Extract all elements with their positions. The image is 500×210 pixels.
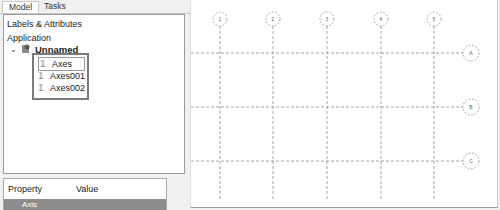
chevron-down-icon[interactable]: ⌄ (10, 45, 17, 54)
3d-view[interactable]: 1 2 3 4 5 A B C (190, 0, 498, 208)
labels-attributes-item[interactable]: Labels & Attributes (7, 19, 82, 29)
column-bubble-3: 3 (326, 16, 329, 22)
tab-tasks[interactable]: Tasks (44, 1, 66, 12)
axes-icon: 𝟙 (38, 70, 47, 82)
column-bubble-5: 5 (433, 16, 436, 22)
row-bubble-c: C (469, 158, 473, 164)
axis-grid: 1 2 3 4 5 A B C (191, 0, 497, 207)
property-panel: Property Value Axis (3, 178, 167, 210)
axes-icon: 𝟙 (40, 58, 49, 70)
panel-tabs: Model Tasks (0, 0, 190, 14)
property-column-header: Property (8, 184, 42, 194)
model-tree: Labels & Attributes Application ⌄ Unname… (3, 14, 185, 174)
column-bubble-1: 1 (219, 16, 222, 22)
axes-group-list: 𝟙Axes 𝟙Axes001 𝟙Axes002 (32, 53, 89, 100)
value-column-header: Value (76, 184, 98, 194)
tree-item-axes001[interactable]: 𝟙Axes001 (38, 70, 85, 82)
document-icon (21, 44, 31, 54)
column-bubble-2: 2 (272, 16, 275, 22)
tab-model[interactable]: Model (2, 1, 39, 13)
column-bubble-4: 4 (380, 16, 383, 22)
tree-item-axes002[interactable]: 𝟙Axes002 (38, 82, 85, 94)
application-item[interactable]: Application (7, 33, 51, 43)
axes-icon: 𝟙 (38, 82, 47, 94)
property-group-axis[interactable]: Axis (4, 199, 166, 210)
tree-item-axes[interactable]: 𝟙Axes (38, 57, 85, 71)
